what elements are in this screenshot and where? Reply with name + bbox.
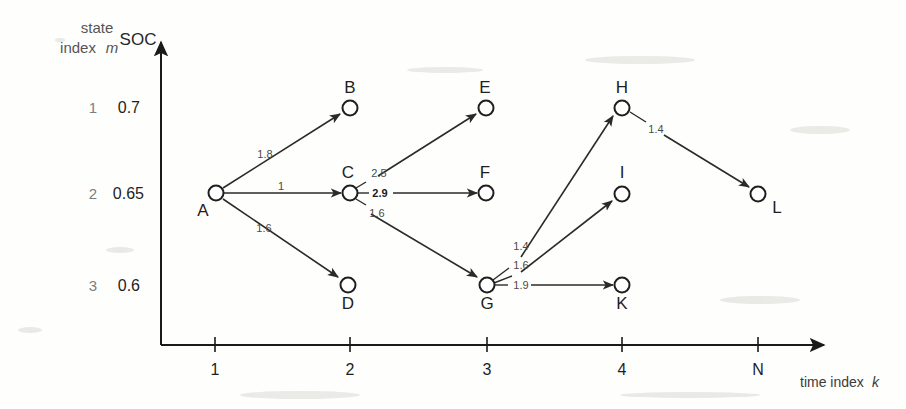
node-label-G: G <box>480 294 493 313</box>
node-label-E: E <box>479 78 490 97</box>
header-labels: state index m SOC <box>60 19 156 56</box>
edge-A-B <box>223 114 340 188</box>
x-axis-labels: 1 2 3 4 N time index k <box>211 361 880 390</box>
x-axis-label: time index <box>800 374 864 390</box>
node-I[interactable] <box>615 187 630 202</box>
node-B[interactable] <box>343 101 358 116</box>
y-axis-labels: 1 0.7 2 0.65 3 0.6 <box>89 99 144 294</box>
node-label-H: H <box>616 78 628 97</box>
node-label-L: L <box>772 198 781 217</box>
edge-C-G-stub <box>356 199 366 205</box>
node-label-B: B <box>344 78 355 97</box>
edge-weight-labels: 1.8 1 1.6 2.5 2.9 1.6 1.4 1.6 1.9 1.4 <box>256 123 663 291</box>
edge-label-C-F: 2.9 <box>372 187 387 199</box>
node-label-K: K <box>616 294 628 313</box>
edge-label-H-L: 1.4 <box>648 123 663 135</box>
edge-label-G-H: 1.4 <box>513 240 528 252</box>
edge-C-E-stub <box>356 182 366 188</box>
node-label-D: D <box>342 294 354 313</box>
edge-label-A-B: 1.8 <box>257 148 272 160</box>
nodes <box>209 101 766 293</box>
x-tick-label-N: N <box>752 361 764 378</box>
edge-label-C-G: 1.6 <box>369 207 384 219</box>
edge-label-G-I: 1.6 <box>513 259 528 271</box>
state-index-value-2: 2 <box>89 185 97 202</box>
x-tick-label-4: 4 <box>618 361 627 378</box>
edge-C-G <box>371 214 477 277</box>
edge-label-C-E: 2.5 <box>371 167 386 179</box>
node-E[interactable] <box>479 101 494 116</box>
node-label-F: F <box>480 163 490 182</box>
edge-H-L-stub <box>630 112 646 122</box>
x-tick-label-2: 2 <box>346 361 355 378</box>
node-H[interactable] <box>615 101 630 116</box>
edge-A-D <box>223 199 338 277</box>
x-axis-label-symbol: k <box>872 374 880 390</box>
x-tick-label-3: 3 <box>483 361 492 378</box>
edge-label-A-C: 1 <box>278 180 284 192</box>
y-axis-title: SOC <box>120 30 157 49</box>
x-tick-label-1: 1 <box>211 361 220 378</box>
state-index-value-3: 3 <box>89 277 97 294</box>
state-index-line2: index <box>60 39 96 56</box>
node-C[interactable] <box>343 186 358 201</box>
node-K[interactable] <box>615 278 630 293</box>
edge-label-G-K: 1.9 <box>513 279 528 291</box>
node-label-I: I <box>620 163 625 182</box>
edge-C-E <box>378 114 476 176</box>
node-label-A: A <box>197 201 209 220</box>
state-index-line1: state <box>81 19 114 36</box>
edge-label-A-D: 1.6 <box>256 222 271 234</box>
node-label-C: C <box>342 163 354 182</box>
edge-H-L <box>664 135 749 187</box>
node-D[interactable] <box>341 278 356 293</box>
node-A[interactable] <box>209 186 224 201</box>
trellis-diagram-figure: state index m SOC 1 0.7 2 0.65 3 0.6 1 2… <box>0 0 906 409</box>
state-index-value-1: 1 <box>89 99 97 116</box>
soc-value-2: 0.65 <box>113 185 144 202</box>
node-G[interactable] <box>480 278 495 293</box>
node-F[interactable] <box>479 186 494 201</box>
soc-value-3: 0.6 <box>118 277 140 294</box>
node-L[interactable] <box>751 187 766 202</box>
soc-value-1: 0.7 <box>118 99 140 116</box>
state-index-symbol: m <box>106 39 119 56</box>
diagram-canvas: state index m SOC 1 0.7 2 0.65 3 0.6 1 2… <box>0 0 906 409</box>
